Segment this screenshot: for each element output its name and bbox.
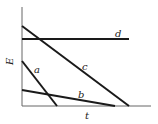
x-axis-label: t: [85, 110, 90, 121]
y-axis-label: E: [4, 57, 15, 66]
label-b: b: [78, 89, 84, 100]
diagram: d c a b t E: [0, 0, 158, 124]
line-b: [22, 90, 115, 106]
label-d: d: [115, 28, 121, 39]
label-a: a: [34, 64, 40, 75]
label-c: c: [82, 61, 88, 72]
